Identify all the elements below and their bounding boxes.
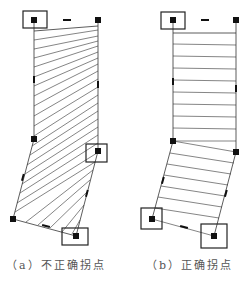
tick-marker [33,76,35,83]
panel-b-cross-lines [152,44,236,236]
tick-marker [180,225,188,229]
vertex-marker [233,17,239,23]
caption-panel-b: （b）正确拐点 [146,256,233,272]
tick-marker [235,85,237,92]
panel-b-markers [149,17,239,239]
dash-marker [201,19,209,21]
vertex-marker [73,233,79,239]
tick-marker [224,190,228,197]
panel-a-diagram [10,11,107,245]
panel-b-diagram [141,12,239,248]
caption-panel-a: （a）不正确拐点 [6,256,106,272]
dash-marker [63,19,71,21]
panel-a-markers [10,17,101,239]
vertex-marker [233,149,239,155]
vertex-marker [95,148,101,154]
vertex-marker [170,17,176,23]
tick-marker [161,177,165,184]
panel-a-left-edge [13,20,34,219]
vertex-marker [211,233,217,239]
panel-a-hatching [15,30,98,234]
vertex-marker [149,216,155,222]
panel-a-highlights [23,11,107,245]
vertex-marker [170,138,176,144]
vertex-marker [95,17,101,23]
figure-canvas [0,0,245,282]
tick-marker [172,78,174,85]
vertex-marker [10,216,16,222]
panel-b-left-edge [152,20,173,219]
vertex-marker [31,17,37,23]
tick-marker [97,81,99,88]
vertex-marker [31,136,37,142]
panel-b-right-edge [214,20,236,236]
